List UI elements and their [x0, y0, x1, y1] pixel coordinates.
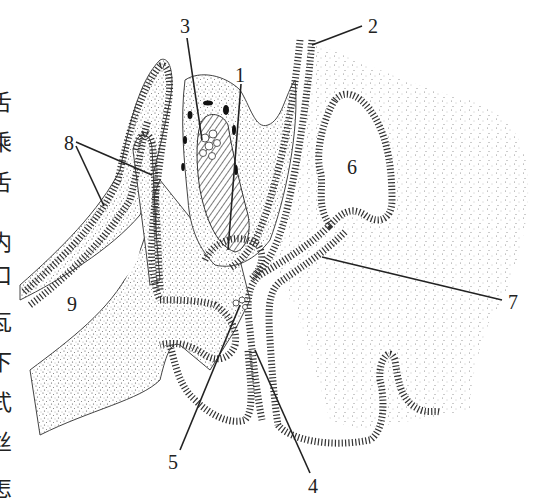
- label-1: 1: [235, 64, 245, 86]
- label-5: 5: [168, 451, 178, 473]
- label-9: 9: [67, 293, 77, 315]
- label-3: 3: [180, 15, 190, 37]
- label-2: 2: [368, 15, 378, 37]
- label-6: 6: [347, 156, 357, 178]
- label-4: 4: [308, 475, 318, 497]
- anatomical-diagram: 1 2 3 4 5 6 7 8 9: [0, 0, 548, 504]
- label-7: 7: [508, 291, 518, 313]
- label-8: 8: [64, 132, 74, 154]
